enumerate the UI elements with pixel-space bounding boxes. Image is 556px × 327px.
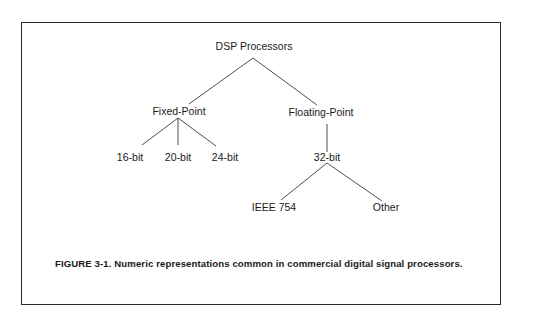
node-16-bit: 16-bit bbox=[117, 152, 143, 163]
edge-32-ieee bbox=[281, 163, 327, 200]
node-other: Other bbox=[373, 202, 399, 213]
node-ieee-754: IEEE 754 bbox=[252, 202, 296, 213]
edge-root-floating bbox=[253, 58, 317, 105]
edge-fixed-24 bbox=[178, 118, 216, 146]
node-fixed-point: Fixed-Point bbox=[152, 106, 205, 117]
edge-root-fixed bbox=[189, 58, 253, 104]
edge-32-other bbox=[327, 163, 382, 201]
figure-caption: FIGURE 3-1. Numeric representations comm… bbox=[55, 258, 465, 270]
node-dsp-processors: DSP Processors bbox=[216, 41, 293, 52]
node-floating-point: Floating-Point bbox=[289, 107, 354, 118]
node-32-bit: 32-bit bbox=[314, 152, 340, 163]
node-24-bit: 24-bit bbox=[212, 152, 238, 163]
edge-fixed-16 bbox=[142, 118, 178, 145]
node-20-bit: 20-bit bbox=[165, 152, 191, 163]
